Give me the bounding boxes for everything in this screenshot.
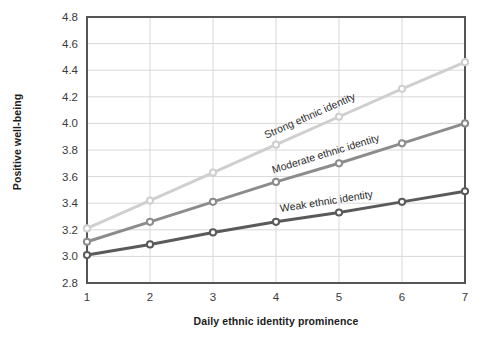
data-point-marker [399,199,405,205]
data-point-marker [462,59,468,65]
data-point-marker [336,160,342,166]
x-axis-title: Daily ethnic identity prominence [87,315,465,327]
data-point-marker [210,199,216,205]
data-point-marker [399,140,405,146]
data-point-marker [273,219,279,225]
data-point-marker [336,114,342,120]
data-point-marker [147,219,153,225]
data-point-marker [84,239,90,245]
data-point-marker [336,209,342,215]
data-point-marker [462,120,468,126]
data-point-marker [84,252,90,258]
chart-figure: Positive well-being 2.83.03.23.43.63.84.… [0,0,490,342]
plot-area [0,0,490,342]
data-point-marker [273,179,279,185]
data-point-marker [210,229,216,235]
data-point-marker [84,225,90,231]
data-point-marker [462,188,468,194]
data-point-marker [147,197,153,203]
data-point-marker [399,86,405,92]
data-point-marker [210,170,216,176]
data-point-marker [147,241,153,247]
data-point-marker [273,142,279,148]
